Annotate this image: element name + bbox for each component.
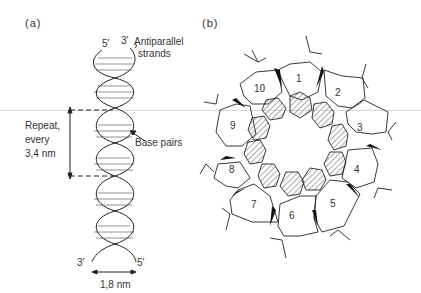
repeat-distance-label: 3,4 nm xyxy=(25,148,56,159)
unit-2-label: 2 xyxy=(335,87,341,98)
figure-drawing xyxy=(0,0,421,293)
unit-4-label: 4 xyxy=(354,164,360,175)
unit-6-label: 6 xyxy=(289,210,295,221)
unit-10-label: 10 xyxy=(254,83,265,94)
three-prime-bottom-label: 3′ xyxy=(77,257,84,268)
unit-5-label: 5 xyxy=(330,198,336,209)
unit-7-label: 7 xyxy=(251,199,257,210)
unit-1-label: 1 xyxy=(296,73,302,84)
panel-b-label: (b) xyxy=(202,18,218,29)
helix-width-label: 1,8 nm xyxy=(100,279,131,290)
unit-8-label: 8 xyxy=(229,164,235,175)
cyclic-ring xyxy=(200,36,396,258)
five-prime-top-label: 5′ xyxy=(102,38,109,49)
panel-a-label: (a) xyxy=(25,18,41,29)
every-label: every xyxy=(25,134,49,145)
antiparallel-label: Antiparallel xyxy=(134,36,183,47)
unit-3-label: 3 xyxy=(357,122,363,133)
base-pairs-label: Base pairs xyxy=(135,137,182,148)
five-prime-bottom-label: 5′ xyxy=(137,257,144,268)
unit-9-label: 9 xyxy=(230,120,236,131)
dna-helix xyxy=(68,43,145,274)
strands-label: strands xyxy=(138,48,171,59)
three-prime-top-label: 3′ xyxy=(121,35,128,46)
repeat-label: Repeat, xyxy=(25,120,60,131)
